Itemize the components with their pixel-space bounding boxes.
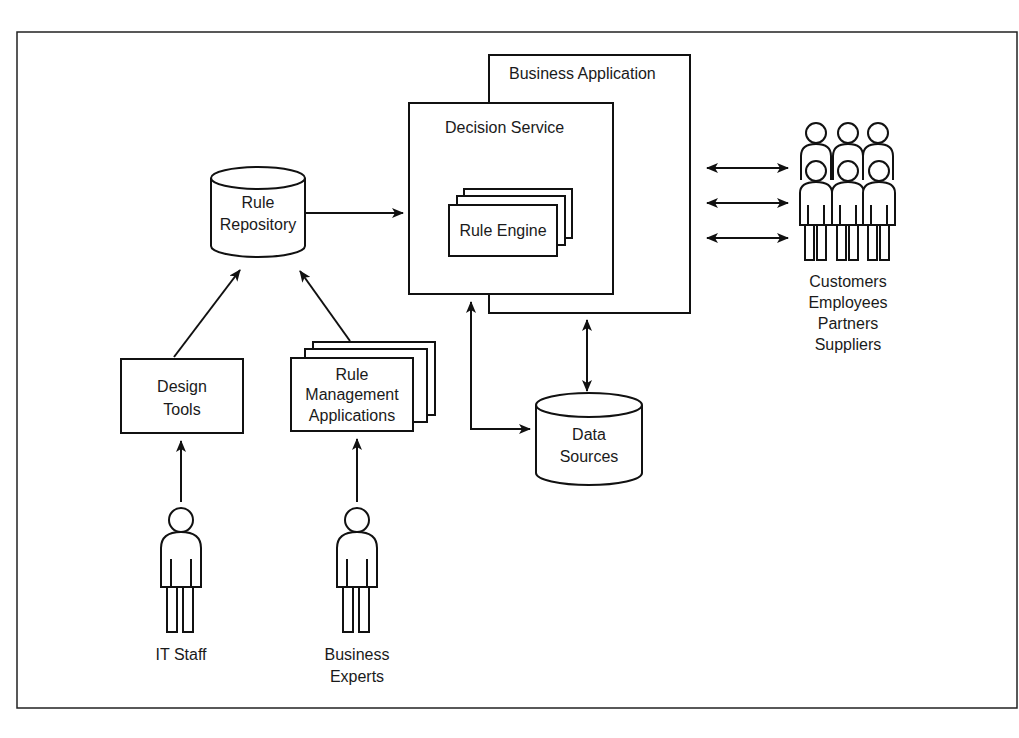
business-application-label: Business Application	[509, 65, 656, 82]
business-experts-label-1: Business	[325, 646, 390, 663]
decision-service-label: Decision Service	[445, 119, 564, 136]
it-staff-person-icon	[161, 508, 201, 632]
rule-management-label-1: Rule	[336, 366, 369, 383]
arrow-rule-management-to-repository	[300, 271, 350, 341]
design-tools-label-1: Design	[157, 378, 207, 395]
rule-repository-cylinder: Rule Repository	[211, 167, 305, 257]
stakeholders-label-4: Suppliers	[815, 336, 882, 353]
rule-repository-label-2: Repository	[220, 216, 296, 233]
stakeholders-label-1: Customers	[809, 273, 886, 290]
rule-management-stack: Rule Management Applications	[291, 342, 435, 431]
stakeholders-label-3: Partners	[818, 315, 878, 332]
business-experts-person-icon	[337, 508, 377, 632]
data-sources-cylinder: Data Sources	[536, 393, 642, 485]
rule-management-label-2: Management	[305, 386, 399, 403]
architecture-diagram: Business Application Decision Service Ru…	[0, 0, 1019, 738]
arrow-design-tools-to-repository	[174, 270, 240, 357]
stakeholders-group-icon	[800, 123, 895, 260]
data-sources-label-2: Sources	[560, 448, 619, 465]
design-tools-box: Design Tools	[121, 359, 243, 433]
rule-management-label-3: Applications	[309, 407, 395, 424]
stakeholders-label-2: Employees	[808, 294, 887, 311]
rule-repository-label-1: Rule	[242, 194, 275, 211]
business-experts-label-2: Experts	[330, 668, 384, 685]
arrow-decision-service-data-sources	[471, 302, 530, 429]
rule-engine-stack: Rule Engine	[449, 189, 572, 256]
rule-engine-label: Rule Engine	[459, 222, 546, 239]
data-sources-label-1: Data	[572, 426, 606, 443]
design-tools-label-2: Tools	[163, 401, 200, 418]
it-staff-label: IT Staff	[156, 646, 208, 663]
